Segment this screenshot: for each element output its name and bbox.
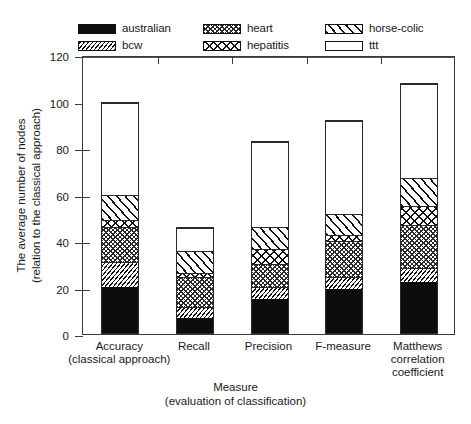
x-axis-title: Measure (evaluation of classification) [0, 380, 471, 408]
x-axis-top-tick [381, 57, 382, 64]
chart-legend: australian heart horse-colic bcw hepatit… [78, 20, 438, 54]
legend-swatch-australian-icon [78, 24, 116, 34]
bar-segment-ttt[interactable] [177, 228, 213, 251]
x-axis-category-label-line: Recall [178, 340, 210, 352]
x-axis-category-label-line: Precision [245, 340, 292, 352]
bar-segment-heart[interactable] [252, 264, 288, 287]
bar-segment-hepatitis[interactable] [102, 220, 138, 227]
y-axis-tick-label: 80 [56, 145, 69, 157]
x-axis-category-label: Matthewscorrelationcoefficient [363, 340, 471, 379]
x-axis-title-line-2: (evaluation of classification) [0, 394, 471, 408]
y-axis-tick: 0 [75, 336, 83, 337]
x-axis-top-tick [158, 57, 159, 64]
reference-line-100 [83, 57, 454, 58]
bar-segment-heart[interactable] [401, 225, 437, 269]
legend-entry-australian: australian [78, 20, 203, 37]
bar-segment-australian[interactable] [401, 282, 437, 333]
bar-segment-horse-colic[interactable] [401, 178, 437, 206]
bar-segment-ttt[interactable] [401, 84, 437, 179]
bar-precision[interactable] [251, 141, 289, 334]
bar-segment-australian[interactable] [177, 318, 213, 333]
legend-entry-horse-colic: horse-colic [325, 20, 445, 37]
y-axis-tick-label: 60 [56, 192, 69, 204]
bar-segment-ttt[interactable] [326, 121, 362, 214]
x-axis-top-tick [307, 57, 308, 64]
legend-label-hepatitis: hepatitis [247, 40, 289, 52]
bar-recall[interactable] [176, 227, 214, 334]
bar-segment-ttt[interactable] [102, 103, 138, 195]
y-axis-tick-inner [83, 290, 90, 291]
y-axis-tick-label: 40 [56, 238, 69, 250]
legend-entry-hepatitis: hepatitis [203, 37, 325, 54]
y-axis-tick: 20 [75, 290, 83, 291]
legend-label-ttt: ttt [369, 40, 378, 52]
bar-accuracy[interactable] [101, 102, 139, 335]
y-axis-title-line-1: The average number of nodes [15, 118, 28, 272]
bar-segment-hepatitis[interactable] [401, 206, 437, 224]
plot-area: 020406080100120 [82, 56, 455, 335]
x-axis-title-line-1: Measure [0, 380, 471, 394]
legend-entry-bcw: bcw [78, 37, 203, 54]
bar-segment-horse-colic[interactable] [326, 214, 362, 235]
y-axis-tick-label: 100 [50, 99, 69, 111]
bar-f-measure[interactable] [325, 120, 363, 334]
legend-label-bcw: bcw [122, 40, 142, 52]
legend-swatch-horse-colic-icon [325, 24, 363, 34]
y-axis-tick: 40 [75, 243, 83, 244]
y-axis-title: The average number of nodes (relation to… [14, 56, 44, 335]
bar-segment-australian[interactable] [252, 299, 288, 334]
legend-label-heart: heart [247, 23, 273, 35]
bar-segment-bcw[interactable] [401, 268, 437, 282]
bar-segment-bcw[interactable] [252, 287, 288, 299]
bar-segment-heart[interactable] [102, 227, 138, 262]
bar-segment-horse-colic[interactable] [102, 195, 138, 220]
x-axis-top-tick [232, 57, 233, 64]
legend-label-australian: australian [122, 23, 171, 35]
bar-matthews[interactable] [400, 83, 438, 334]
y-axis-tick-label: 120 [50, 52, 69, 64]
bar-segment-ttt[interactable] [252, 142, 288, 227]
y-axis-tick-inner [83, 150, 90, 151]
legend-label-horse-colic: horse-colic [369, 23, 424, 35]
legend-swatch-ttt-icon [325, 41, 363, 51]
y-axis-tick-inner [83, 197, 90, 198]
y-axis-tick: 120 [75, 57, 83, 58]
y-axis-tick: 60 [75, 197, 83, 198]
stacked-bar-chart-figure: australian heart horse-colic bcw hepatit… [0, 0, 471, 424]
y-axis-tick: 80 [75, 150, 83, 151]
bar-segment-heart[interactable] [177, 277, 213, 307]
legend-swatch-hepatitis-icon [203, 41, 241, 51]
bar-segment-hepatitis[interactable] [252, 249, 288, 264]
x-axis-category-label-line: (classical approach) [64, 353, 174, 366]
legend-swatch-heart-icon [203, 24, 241, 34]
x-axis-category-label-line: Accuracy [96, 340, 143, 352]
y-axis-tick-inner [83, 243, 90, 244]
x-axis-category-label-line: Matthews [393, 340, 442, 352]
bar-segment-bcw[interactable] [102, 262, 138, 287]
bar-segment-bcw[interactable] [177, 307, 213, 318]
y-axis-tick-label: 20 [56, 285, 69, 297]
legend-swatch-bcw-icon [78, 41, 116, 51]
y-axis-title-line-2: (relation to the classical approach) [30, 108, 43, 283]
x-axis-category-label-line: correlation [363, 353, 471, 366]
x-axis-category-label-line: coefficient [363, 366, 471, 379]
bar-segment-australian[interactable] [326, 289, 362, 333]
bar-segment-heart[interactable] [326, 241, 362, 277]
bar-segment-horse-colic[interactable] [252, 227, 288, 249]
y-axis-tick: 100 [75, 104, 83, 105]
bar-segment-horse-colic[interactable] [177, 251, 213, 273]
bar-segment-bcw[interactable] [326, 277, 362, 290]
bar-segment-australian[interactable] [102, 287, 138, 333]
legend-entry-ttt: ttt [325, 37, 445, 54]
legend-entry-heart: heart [203, 20, 325, 37]
